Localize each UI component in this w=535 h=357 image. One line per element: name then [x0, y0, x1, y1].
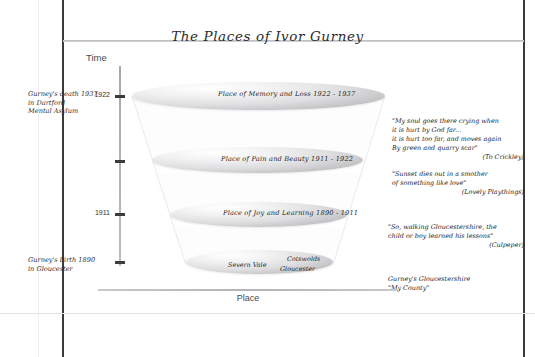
annotation-gurneys-gloucestershire: Gurney's Gloucestershire "My County" — [388, 266, 524, 293]
funnel-label-memory-loss: Place of Memory and Loss 1922 - 1937 — [218, 90, 355, 98]
funnel-label-pain-beauty: Place of Pain and Beauty 1911 - 1922 — [221, 155, 353, 163]
annotation-lovely-playthings: "Sunset dies out in a smother of somethi… — [392, 161, 524, 206]
place-axis-line — [98, 289, 398, 291]
annotation-culpeper: "So, walking Gloucestershire, the child … — [388, 214, 524, 259]
time-tick-label-1911: 1911 — [80, 209, 110, 216]
time-tick-1890 — [115, 261, 125, 264]
annotation-attribution: (Culpeper) — [388, 241, 524, 250]
time-tick-1937 — [115, 95, 125, 98]
annotation-text: "Sunset dies out in a smother of somethi… — [392, 170, 488, 187]
time-note-birth: Gurney's birth 1890 in Gloucester — [28, 256, 95, 273]
funnel-label-joy-learning: Place of Joy and Learning 1890 - 1911 — [223, 209, 358, 217]
time-tick-1922 — [115, 160, 125, 163]
annotation-text: "So, walking Gloucestershire, the child … — [388, 223, 497, 240]
frame-bottom-rule — [0, 313, 535, 314]
place-tag-gloucester: Gloucester — [280, 265, 315, 273]
place-axis-label: Place — [98, 293, 398, 303]
time-tick-1911 — [115, 213, 125, 216]
page-title: The Places of Ivor Gurney — [0, 28, 535, 44]
page-edge-divider — [38, 0, 39, 357]
slide-canvas: The Places of Ivor Gurney Time Gurney's … — [0, 0, 535, 357]
place-tag-severn-vale: Severn Vale — [228, 261, 266, 269]
place-tag-cotswolds: Cotswolds — [287, 255, 320, 263]
time-axis-label: Time — [86, 52, 107, 63]
frame-left-border — [62, 0, 64, 357]
time-tick-label-1922: 1922 — [80, 91, 110, 98]
annotation-attribution: (Lovely Playthings) — [392, 188, 524, 197]
annotation-text: "My soul goes there crying when it is hu… — [392, 117, 501, 152]
annotation-text: Gurney's Gloucestershire "My County" — [388, 275, 470, 292]
